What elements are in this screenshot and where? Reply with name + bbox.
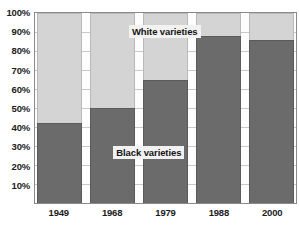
x-tick-label: 1979	[143, 207, 189, 218]
y-tick-label: 10%	[12, 179, 30, 190]
annotation-white-varieties: White varieties	[129, 25, 201, 38]
bar-segment-white-varieties[interactable]	[37, 13, 82, 123]
bar-segment-white-varieties[interactable]	[249, 13, 294, 40]
y-tick-label: 80%	[12, 45, 30, 56]
bars-container	[35, 13, 296, 203]
x-tick-label: 1949	[36, 207, 82, 218]
y-tick-label: 100%	[7, 7, 31, 18]
stacked-bar-chart: 10%20%30%40%50%60%70%80%90%100% White va…	[0, 0, 299, 235]
y-tick-label: 60%	[12, 83, 30, 94]
x-tick-label: 1968	[89, 207, 135, 218]
bar-segment-black-varieties[interactable]	[143, 80, 188, 204]
bar-segment-white-varieties[interactable]	[143, 13, 188, 80]
bar-segment-black-varieties[interactable]	[196, 36, 241, 203]
bar-column[interactable]	[143, 13, 188, 203]
annotation-black-varieties: Black varieties	[113, 146, 184, 159]
bar-segment-black-varieties[interactable]	[249, 40, 294, 203]
x-axis: 19491968197919882000	[34, 207, 297, 218]
bar-column[interactable]	[249, 13, 294, 203]
bar-segment-black-varieties[interactable]	[37, 123, 82, 203]
y-tick-label: 30%	[12, 141, 30, 152]
y-tick-label: 40%	[12, 122, 30, 133]
y-axis: 10%20%30%40%50%60%70%80%90%100%	[0, 12, 32, 204]
bar-column[interactable]	[37, 13, 82, 203]
y-tick-label: 20%	[12, 160, 30, 171]
x-tick-label: 1988	[196, 207, 242, 218]
bar-segment-white-varieties[interactable]	[196, 13, 241, 36]
y-tick-label: 50%	[12, 103, 30, 114]
y-tick-label: 90%	[12, 26, 30, 37]
bar-column[interactable]	[196, 13, 241, 203]
bar-column[interactable]	[90, 13, 135, 203]
x-tick-label: 2000	[249, 207, 295, 218]
plot-area: White varieties Black varieties	[34, 12, 297, 204]
y-tick-label: 70%	[12, 64, 30, 75]
